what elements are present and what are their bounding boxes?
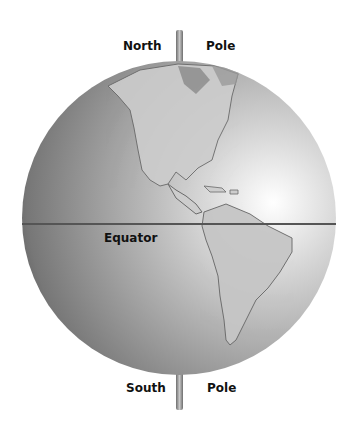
south-pole-label: Pole	[207, 381, 236, 395]
south-label: South	[126, 381, 166, 395]
globe-diagram: North Pole Equator South Pole	[0, 0, 356, 424]
equator-label: Equator	[104, 231, 157, 245]
north-pole-label: Pole	[206, 39, 235, 53]
north-label: North	[123, 39, 161, 53]
globe-illustration	[0, 0, 356, 424]
